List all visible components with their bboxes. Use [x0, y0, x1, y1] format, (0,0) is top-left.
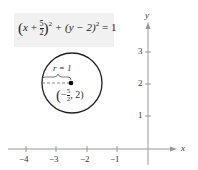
radius-label: r = 1 — [53, 63, 72, 73]
y-tick-label: 3 — [138, 46, 143, 56]
x-tick-label: −4 — [19, 154, 29, 164]
eq-part2: + (y − 2) — [52, 21, 96, 33]
y-tick-label: 1 — [138, 110, 143, 120]
center-rest: , 2) — [70, 89, 83, 100]
x-tick-label: −2 — [80, 154, 90, 164]
circle-equation: (x + 52)2 + (y − 2)2 = 1 — [18, 20, 116, 37]
eq-rhs: = 1 — [99, 21, 116, 33]
x-tick-label: −3 — [49, 154, 59, 164]
y-axis-label: y — [145, 10, 149, 20]
radius-brace-icon — [42, 74, 71, 80]
x-axis-arrow-icon — [170, 147, 177, 152]
y-axis-arrow-icon — [146, 22, 151, 29]
center-label: (−52, 2) — [56, 87, 83, 104]
eq-plus: + — [28, 21, 40, 33]
x-tick-label: −1 — [110, 154, 120, 164]
x-axis-label: x — [181, 143, 185, 153]
center-point — [69, 81, 74, 86]
y-tick-label: 2 — [138, 78, 143, 88]
